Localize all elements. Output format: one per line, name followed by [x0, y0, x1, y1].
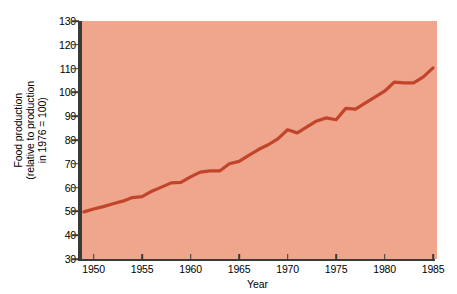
y-axis-title: Food production (relative to production …: [12, 81, 49, 180]
y-tick-mark: [72, 163, 79, 165]
x-tick-label: 1965: [228, 263, 251, 275]
y-tick-mark: [72, 187, 79, 189]
chart-figure: Food production (relative to production …: [0, 0, 457, 294]
x-axis-spine: [78, 259, 435, 261]
y-tick-mark: [72, 44, 79, 46]
series-layer: [80, 21, 435, 259]
y-tick-mark: [72, 92, 79, 94]
x-tick-label: 1980: [373, 263, 396, 275]
y-tick-mark: [72, 139, 79, 141]
y-axis-title-line-2: (relative to production: [24, 81, 36, 180]
y-tick-mark: [72, 20, 79, 22]
food-production-line: [84, 68, 433, 212]
y-tick-mark: [72, 211, 79, 213]
y-tick-mark: [72, 115, 79, 117]
x-tick-label: 1955: [131, 263, 154, 275]
y-tick-mark: [72, 258, 79, 260]
y-tick-mark: [72, 68, 79, 70]
x-axis-title: Year: [80, 278, 435, 290]
x-tick-label: 1950: [82, 263, 105, 275]
x-tick-label: 1960: [179, 263, 202, 275]
y-tick-mark: [72, 234, 79, 236]
x-tick-label: 1970: [276, 263, 299, 275]
x-tick-label: 1975: [325, 263, 348, 275]
x-tick-label: 1985: [422, 263, 445, 275]
y-axis-title-line-1: Food production: [12, 81, 24, 180]
